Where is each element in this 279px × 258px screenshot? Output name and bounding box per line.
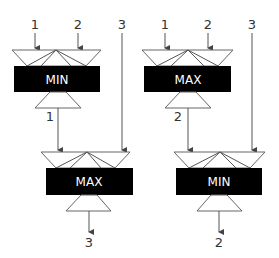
stage2-input-funnel bbox=[174, 152, 265, 168]
stage1-input-funnel bbox=[12, 50, 101, 66]
network-left: 1 2 3 MIN 1 MAX 3 bbox=[12, 17, 133, 250]
stage1-output-label: 1 bbox=[46, 109, 54, 124]
input-label-1: 1 bbox=[161, 17, 169, 32]
sorting-network-diagram: 1 2 3 MIN 1 MAX 3 1 2 3 bbox=[0, 0, 279, 258]
min-box-label: MIN bbox=[208, 175, 231, 189]
stage2-input-funnel bbox=[41, 152, 130, 168]
stage1-output-funnel bbox=[35, 92, 81, 108]
input-label-2: 2 bbox=[74, 17, 82, 32]
stage1-input-funnel bbox=[142, 50, 233, 66]
stage1-output-label: 2 bbox=[174, 109, 182, 124]
input-label-2: 2 bbox=[204, 17, 212, 32]
final-output-label: 2 bbox=[215, 235, 223, 250]
input-label-3: 3 bbox=[118, 17, 126, 32]
final-output-label: 3 bbox=[85, 235, 93, 250]
stage2-output-funnel bbox=[66, 195, 111, 211]
input-label-3: 3 bbox=[248, 17, 256, 32]
network-right: 1 2 3 MAX 2 MIN 2 bbox=[142, 17, 265, 250]
min-box-label: MIN bbox=[46, 73, 69, 87]
max-box-label: MAX bbox=[175, 73, 202, 87]
max-box-label: MAX bbox=[76, 175, 103, 189]
stage1-output-funnel bbox=[165, 92, 211, 108]
stage2-output-funnel bbox=[197, 195, 242, 211]
input-label-1: 1 bbox=[31, 17, 39, 32]
